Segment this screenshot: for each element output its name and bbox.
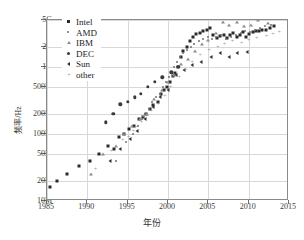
data-point <box>215 36 217 38</box>
data-point <box>235 20 239 23</box>
data-point <box>166 80 170 83</box>
x-tick-label: 1995 <box>119 202 135 211</box>
data-point <box>118 147 121 151</box>
data-point <box>277 30 281 34</box>
data-point <box>225 38 227 40</box>
legend-marker-icon <box>63 17 74 27</box>
data-point <box>242 25 246 28</box>
data-point <box>106 145 109 148</box>
data-point <box>176 61 178 63</box>
data-point <box>240 32 242 34</box>
data-point <box>266 22 270 25</box>
data-point <box>125 141 127 143</box>
x-tick-label: 2015 <box>280 202 296 211</box>
data-point <box>193 50 197 53</box>
legend-marker-icon <box>63 28 74 38</box>
x-tick-label: 2000 <box>159 202 175 211</box>
data-point <box>179 56 181 58</box>
legend-item[interactable]: Sun <box>63 59 97 70</box>
data-point <box>114 145 118 148</box>
legend-marker-icon <box>63 59 74 69</box>
data-point <box>216 45 220 49</box>
data-point <box>78 165 81 168</box>
gridline-horizontal <box>47 134 287 135</box>
data-point <box>66 173 69 176</box>
data-point <box>168 85 172 89</box>
legend-item-label: DEC <box>76 49 94 59</box>
data-point <box>236 51 239 55</box>
legend-item[interactable]: AMD <box>63 28 97 39</box>
x-tick-label: 2005 <box>199 202 215 211</box>
data-point <box>220 34 222 36</box>
data-point <box>221 20 225 23</box>
data-point <box>134 125 138 129</box>
data-point <box>101 153 105 156</box>
data-point <box>177 75 181 79</box>
legend-item-label: other <box>76 70 95 80</box>
data-point <box>163 94 167 98</box>
data-point <box>256 19 260 22</box>
data-point <box>185 45 188 48</box>
data-point <box>192 35 195 38</box>
data-point <box>273 25 276 28</box>
data-point <box>139 92 142 95</box>
data-point <box>249 31 251 33</box>
data-point <box>121 138 125 142</box>
legend-item[interactable]: Intel <box>63 17 97 28</box>
data-point <box>161 76 164 79</box>
data-point <box>139 120 143 124</box>
y-axis-title: 频率/Hz <box>12 106 23 134</box>
data-point <box>207 48 211 52</box>
data-point <box>173 66 175 68</box>
legend-item[interactable]: IBM <box>63 38 97 49</box>
data-point <box>200 60 203 64</box>
data-point <box>202 38 204 40</box>
data-point <box>270 24 272 26</box>
data-point <box>108 159 111 163</box>
data-point <box>268 26 271 29</box>
data-point <box>88 159 91 162</box>
legend-marker-icon <box>63 70 74 80</box>
data-point <box>110 149 114 153</box>
data-point <box>249 23 253 26</box>
legend-item[interactable]: DEC <box>63 49 97 60</box>
data-point <box>126 135 130 139</box>
data-point <box>211 38 213 40</box>
data-point <box>55 179 58 182</box>
data-point <box>93 167 97 171</box>
data-point <box>247 38 251 42</box>
data-point <box>156 102 160 106</box>
data-point <box>209 55 212 59</box>
x-tick-label: 1990 <box>78 202 94 211</box>
gridline-horizontal <box>47 181 287 182</box>
data-point <box>168 76 170 78</box>
data-point <box>231 39 235 43</box>
data-point <box>198 53 202 57</box>
data-point <box>222 42 226 46</box>
data-point <box>218 51 221 55</box>
legend-item[interactable]: other <box>63 70 97 81</box>
data-point <box>142 115 146 119</box>
data-point <box>149 109 153 113</box>
data-point <box>119 103 122 106</box>
data-point <box>122 132 126 135</box>
legend-marker-icon <box>63 49 74 59</box>
data-point <box>146 85 149 88</box>
data-point <box>264 34 268 38</box>
data-point <box>200 42 204 45</box>
x-tick-label: 1985 <box>38 202 54 211</box>
data-point <box>133 96 136 99</box>
data-point <box>208 26 211 29</box>
data-point <box>195 33 198 36</box>
data-point <box>271 32 275 36</box>
data-point <box>188 40 191 43</box>
data-point <box>235 34 237 36</box>
chart-figure: 频率/Hz 10M20M50M100M200M500M1G2G5G 198519… <box>0 0 304 240</box>
data-point <box>115 160 117 162</box>
data-point <box>177 65 180 68</box>
data-point <box>190 60 194 64</box>
data-point <box>190 46 192 48</box>
data-point <box>193 43 195 45</box>
data-point <box>152 97 156 100</box>
data-point <box>259 27 261 29</box>
